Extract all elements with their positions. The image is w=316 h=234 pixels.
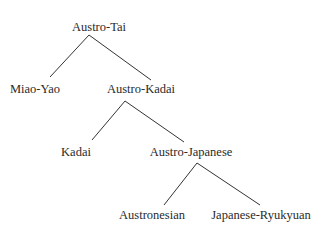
node-japanese-ryukyuan: Japanese-Ryukyuan	[211, 209, 310, 222]
node-austro-kadai: Austro-Kadai	[107, 83, 175, 96]
tree-edges	[0, 0, 316, 234]
edge-austro-japanese-japanese-ryukyuan	[197, 163, 260, 205]
edge-austro-japanese-austronesian	[164, 163, 197, 205]
edge-austro-tai-miao-yao	[50, 35, 89, 77]
node-austro-tai: Austro-Tai	[72, 21, 126, 34]
node-kadai: Kadai	[61, 146, 91, 159]
node-austro-japanese: Austro-Japanese	[150, 146, 233, 159]
edge-austro-tai-austro-kadai	[89, 35, 151, 80]
edge-austro-kadai-austro-japanese	[125, 101, 184, 142]
edge-austro-kadai-kadai	[92, 101, 125, 140]
node-austronesian: Austronesian	[119, 209, 185, 222]
node-miao-yao: Miao-Yao	[10, 83, 60, 96]
